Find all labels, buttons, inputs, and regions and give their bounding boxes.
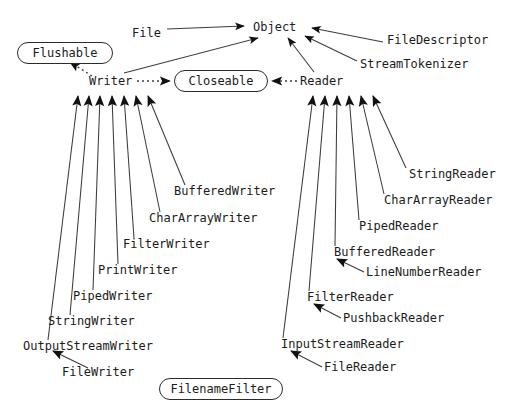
edge-file-object <box>167 26 244 29</box>
class-string-reader[interactable]: StringReader <box>409 167 496 181</box>
edge-filterwriter-writer <box>124 96 134 238</box>
edge-printwriter-writer <box>112 96 118 264</box>
class-file-writer[interactable]: FileWriter <box>62 365 134 379</box>
edge-pipedreader-reader <box>349 96 359 220</box>
class-buffered-writer[interactable]: BufferedWriter <box>174 184 275 198</box>
class-writer[interactable]: Writer <box>89 74 132 88</box>
edge-pushbackreader-filterreader <box>314 304 341 318</box>
class-filter-reader[interactable]: FilterReader <box>307 290 394 304</box>
class-output-stream-writer[interactable]: OutputStreamWriter <box>23 339 153 353</box>
class-piped-reader[interactable]: PipedReader <box>359 219 438 233</box>
edge-bufferedreader-reader <box>335 96 337 246</box>
class-piped-writer[interactable]: PipedWriter <box>73 289 152 303</box>
class-stream-tokenizer[interactable]: StreamTokenizer <box>360 57 468 71</box>
edge-outputstreamwriter-writer <box>48 96 78 340</box>
class-file-descriptor[interactable]: FileDescriptor <box>387 33 488 47</box>
edge-pipedwriter-writer <box>93 96 100 290</box>
class-buffered-reader[interactable]: BufferedReader <box>334 245 435 259</box>
class-diagram-canvas: Object File FileDescriptor StreamTokeniz… <box>0 0 514 412</box>
edge-filterreader-reader <box>309 96 325 291</box>
edge-reader-object <box>288 38 314 72</box>
class-line-number-reader[interactable]: LineNumberReader <box>366 265 482 279</box>
class-filter-writer[interactable]: FilterWriter <box>123 237 210 251</box>
edge-stringreader-reader <box>373 96 406 168</box>
edge-stringwriter-writer <box>70 96 89 315</box>
edge-filedescriptor-object <box>312 28 383 42</box>
class-pushback-reader[interactable]: PushbackReader <box>343 311 444 325</box>
edge-linenumberreader-bufferedreader <box>337 259 364 272</box>
edge-bufferedwriter-writer <box>148 96 185 185</box>
class-string-writer[interactable]: StringWriter <box>48 314 135 328</box>
class-file[interactable]: File <box>132 26 161 40</box>
edge-chararraywriter-writer <box>136 96 160 212</box>
class-object[interactable]: Object <box>253 20 296 34</box>
interface-closeable[interactable]: Closeable <box>174 70 268 92</box>
edge-writer-object <box>124 38 258 73</box>
interface-flushable[interactable]: Flushable <box>17 42 113 64</box>
class-file-reader[interactable]: FileReader <box>324 360 396 374</box>
edge-chararrayreader-reader <box>361 96 384 194</box>
class-reader[interactable]: Reader <box>300 74 343 88</box>
edge-streamtokenizer-object <box>305 36 357 61</box>
class-input-stream-reader[interactable]: InputStreamReader <box>281 337 404 351</box>
class-char-array-writer[interactable]: CharArrayWriter <box>149 211 257 225</box>
interface-filename-filter[interactable]: FilenameFilter <box>159 378 283 400</box>
class-char-array-reader[interactable]: CharArrayReader <box>384 193 492 207</box>
class-print-writer[interactable]: PrintWriter <box>98 263 177 277</box>
edge-filereader-inputstreamreader <box>291 351 322 367</box>
